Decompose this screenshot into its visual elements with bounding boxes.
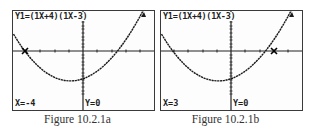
parabola-graph — [161, 11, 302, 110]
figure-10-2-1a: Y1=(1X+4)(1X-3) X=-4 Y=0 Figure 10.2.1a — [0, 0, 155, 129]
figure-10-2-1b: Y1=(1X+4)(1X-3) X=3 Y=0 Figure 10.2.1b — [148, 0, 303, 129]
calculator-graph-screen: Y1=(1X+4)(1X-3) X=-4 Y=0 — [12, 10, 155, 111]
trace-y-value: Y=0 — [85, 99, 100, 108]
parabola-curve — [14, 11, 145, 81]
trace-x-value: X=3 — [163, 99, 178, 108]
trace-x-value: X=-4 — [15, 99, 35, 108]
parabola-graph — [13, 11, 154, 110]
parabola-curve — [162, 11, 293, 81]
figure-caption: Figure 10.2.1b — [148, 113, 303, 125]
trace-y-value: Y=0 — [233, 99, 248, 108]
equation-label: Y1=(1X+4)(1X-3) — [162, 12, 236, 21]
calculator-graph-screen: Y1=(1X+4)(1X-3) X=3 Y=0 — [160, 10, 303, 111]
equation-label: Y1=(1X+4)(1X-3) — [14, 12, 88, 21]
figure-caption: Figure 10.2.1a — [0, 113, 155, 125]
